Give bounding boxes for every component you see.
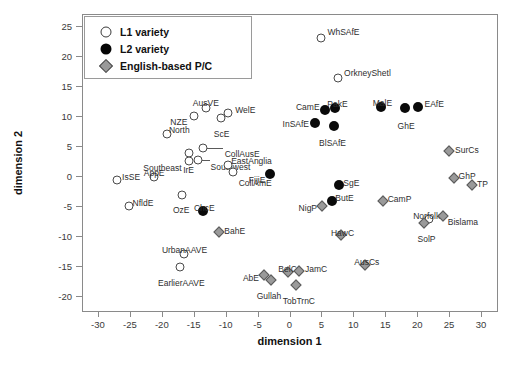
x-axis-tick-label: 20 <box>412 319 423 330</box>
legend-item: L2 variety <box>99 41 169 57</box>
x-axis-tick-label: -15 <box>187 319 201 330</box>
data-point[interactable] <box>178 191 187 200</box>
chart-legend: L1 varietyL2 varietyEnglish-based P/C <box>84 16 252 79</box>
data-point-label: HawC <box>331 228 354 238</box>
data-point[interactable] <box>293 266 304 277</box>
data-point-label: WhSAfE <box>327 27 359 37</box>
data-point[interactable] <box>400 103 410 113</box>
x-axis-tick <box>417 311 418 317</box>
data-point-label: MalE <box>373 98 392 108</box>
x-axis-tick-label: 30 <box>476 319 487 330</box>
data-point-label: Bislama <box>448 217 478 227</box>
data-point[interactable] <box>316 200 327 211</box>
y-axis-tick-label: 15 <box>61 81 72 92</box>
open-circle-icon <box>99 26 112 39</box>
data-point-label: OzE <box>173 205 190 215</box>
data-point[interactable] <box>329 121 339 131</box>
x-axis-tick <box>226 311 227 317</box>
x-axis-tick-label: 10 <box>348 319 359 330</box>
data-point[interactable] <box>377 196 388 207</box>
y-axis-tick-label: 0 <box>67 171 72 182</box>
data-point-label: SgE <box>343 178 359 188</box>
data-point-label: AppE <box>144 168 165 178</box>
x-axis-tick <box>194 311 195 317</box>
x-axis-tick <box>321 311 322 317</box>
data-point[interactable] <box>413 102 423 112</box>
data-point-label: SolP <box>418 234 436 244</box>
data-point-label: TobTrnC <box>283 296 315 306</box>
plot-right-border <box>497 14 498 311</box>
x-axis-tick-label: -30 <box>91 319 105 330</box>
diamond-icon <box>99 60 112 73</box>
data-point-label: InSAfE <box>283 119 309 129</box>
x-axis-tick <box>449 311 450 317</box>
data-point-label: AusVE <box>193 98 219 108</box>
y-axis-tick-label: 5 <box>67 141 72 152</box>
data-point[interactable] <box>443 145 454 156</box>
x-axis-title: dimension 1 <box>257 335 321 347</box>
data-point[interactable] <box>176 263 185 272</box>
x-axis-tick-label: 5 <box>319 319 324 330</box>
y-axis-tick-label: -15 <box>58 261 72 272</box>
data-point-label: North <box>169 125 190 135</box>
x-axis-tick-label: -20 <box>155 319 169 330</box>
x-axis-tick <box>385 311 386 317</box>
data-point-label: BahE <box>224 226 245 236</box>
x-axis-tick <box>258 311 259 317</box>
filled-circle-icon <box>99 43 112 56</box>
data-point[interactable] <box>113 175 122 184</box>
data-point[interactable] <box>334 73 343 82</box>
data-point-label: ChcE <box>194 203 215 213</box>
data-point-label: CamP <box>388 194 412 204</box>
chart-root: -30-25-20-15-10-5051015202530-20-15-10-5… <box>0 0 513 379</box>
data-point[interactable] <box>184 157 193 166</box>
legend-item: English-based P/C <box>99 58 212 74</box>
data-point-label: SurCs <box>455 145 479 155</box>
data-point-label: Gullah <box>257 291 282 301</box>
x-axis-tick-label: -25 <box>123 319 137 330</box>
data-point-label: PakE <box>327 99 347 109</box>
data-point[interactable] <box>216 114 225 123</box>
data-point-label: ButE <box>335 193 353 203</box>
data-point[interactable] <box>317 34 326 43</box>
x-axis-tick-label: 0 <box>287 319 292 330</box>
y-axis-tick-label: 25 <box>61 21 72 32</box>
data-point[interactable] <box>190 112 199 121</box>
data-point[interactable] <box>193 156 202 165</box>
legend-item: L1 variety <box>99 24 169 40</box>
y-axis-tick-label: -5 <box>64 201 72 212</box>
data-point-label: AbE <box>243 273 259 283</box>
y-axis-tick-label: -20 <box>58 291 72 302</box>
x-axis-tick <box>130 311 131 317</box>
data-point-label: ScE <box>214 129 230 139</box>
y-axis-tick-label: 20 <box>61 51 72 62</box>
data-point[interactable] <box>265 169 275 179</box>
data-point-label: WelE <box>235 105 255 115</box>
data-point[interactable] <box>448 173 459 184</box>
data-point[interactable] <box>214 226 225 237</box>
x-axis-tick <box>98 311 99 317</box>
data-point-label: BlSAfE <box>319 138 346 148</box>
data-point[interactable] <box>228 168 237 177</box>
legend-item-label: L1 variety <box>120 26 169 38</box>
data-point-label: AusCs <box>354 257 379 267</box>
data-point[interactable] <box>310 118 320 128</box>
data-point-label: GhE <box>398 121 415 131</box>
data-point-label: OrkneyShetl <box>344 68 391 78</box>
data-point-label: NfldE <box>133 198 154 208</box>
legend-item-label: English-based P/C <box>120 60 212 72</box>
legend-item-label: L2 variety <box>120 43 169 55</box>
data-point[interactable] <box>290 279 301 290</box>
x-axis-tick-label: 15 <box>380 319 391 330</box>
x-axis-tick <box>481 311 482 317</box>
data-point-label: IsSE <box>122 172 140 182</box>
data-point-label: EastAnglia <box>231 156 272 166</box>
x-axis-tick <box>290 311 291 317</box>
label-leader-line <box>202 160 210 161</box>
data-point[interactable] <box>224 109 233 118</box>
data-point-label: UrbanAAVE <box>162 245 207 255</box>
data-point[interactable] <box>198 144 207 153</box>
y-axis-tick-label: 10 <box>61 111 72 122</box>
y-axis-tick-label: -10 <box>58 231 72 242</box>
data-point-label: EarlierAAVE <box>158 278 205 288</box>
